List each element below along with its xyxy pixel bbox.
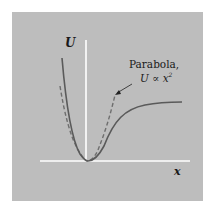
potential-well-diagram: [0, 0, 213, 213]
x-axis-label: x: [174, 165, 181, 178]
y-axis-label: U: [65, 36, 75, 50]
parabola-annotation-formula: U ∝ x2: [140, 71, 172, 84]
parabola-annotation-title: Parabola,: [129, 58, 179, 70]
formula-exponent: 2: [169, 71, 173, 78]
formula-base: U ∝ x: [140, 72, 169, 84]
parabola-dashed-curve: [60, 86, 115, 161]
